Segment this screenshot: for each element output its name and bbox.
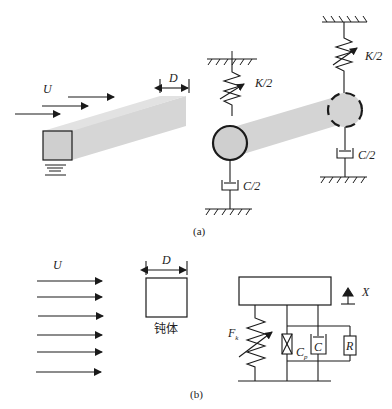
mass-block bbox=[239, 277, 331, 305]
resistor-label: R bbox=[345, 339, 354, 353]
piezo-label: Cp bbox=[296, 345, 308, 361]
spring-right bbox=[333, 22, 357, 93]
spring-left-label: K/2 bbox=[254, 76, 272, 90]
flow-label-b: U bbox=[53, 258, 63, 272]
ground-bottom-right bbox=[320, 177, 367, 183]
spring-right-label: K/2 bbox=[364, 49, 382, 63]
caption-b: (b) bbox=[190, 388, 203, 401]
cylinder-left-position bbox=[213, 126, 247, 160]
damper-left bbox=[222, 160, 238, 209]
caption-a: (a) bbox=[193, 225, 206, 238]
damper-label: C bbox=[314, 340, 323, 354]
spring-variable bbox=[239, 305, 272, 381]
ground-symbol-left bbox=[45, 165, 66, 175]
displacement-label: X bbox=[361, 285, 370, 299]
ground-bottom-left bbox=[205, 209, 252, 215]
damper-right-label: C/2 bbox=[358, 148, 375, 162]
damper-left-label: C/2 bbox=[243, 179, 260, 193]
flow-arrows-b bbox=[36, 281, 103, 372]
cylinder-right-position bbox=[328, 93, 362, 127]
flow-label-a: U bbox=[43, 82, 53, 96]
bluff-body-label: 钝体 bbox=[154, 322, 178, 336]
spring-left bbox=[220, 59, 244, 116]
width-label-a: D bbox=[168, 71, 178, 85]
ground-top-right bbox=[322, 16, 367, 22]
damper-right bbox=[337, 127, 353, 177]
displacement-arrow bbox=[341, 288, 355, 304]
bluff-body bbox=[146, 278, 187, 317]
piezo-element bbox=[282, 334, 292, 354]
figure: U D K/2 C/2 K/2 bbox=[0, 0, 392, 409]
spring-force-label: Fk bbox=[227, 326, 239, 342]
prism-cross-section bbox=[43, 131, 72, 160]
width-label-b: D bbox=[161, 253, 171, 267]
flow-arrows-a bbox=[15, 97, 114, 114]
